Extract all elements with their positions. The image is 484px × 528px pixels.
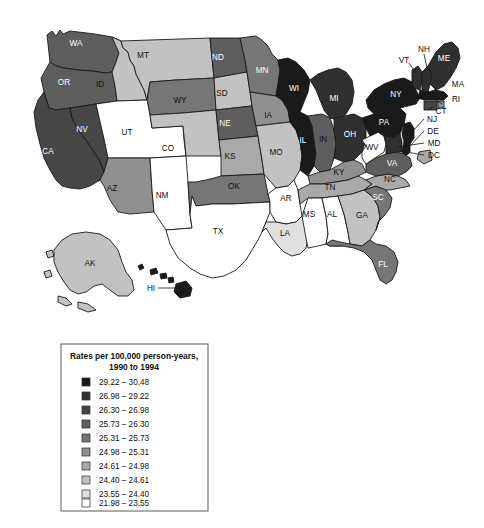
legend-entry-label: 29.22 – 30.48	[99, 378, 150, 387]
legend-entry-label: 23.55 – 24.40	[99, 490, 150, 499]
label-AR: AR	[280, 194, 291, 203]
state-HI-island-4	[168, 277, 174, 283]
legend-swatch	[82, 420, 90, 428]
label-ND: ND	[212, 53, 224, 62]
label-CA: CA	[42, 147, 54, 156]
leader-line-NH	[424, 54, 427, 68]
label-FL: FL	[378, 260, 388, 269]
label-MT: MT	[137, 51, 149, 60]
state-HI-island-1	[138, 264, 144, 270]
label-NJ: NJ	[427, 115, 437, 124]
label-WA: WA	[70, 39, 83, 48]
label-KS: KS	[225, 152, 236, 161]
state-HI-island-2	[150, 268, 158, 275]
label-IL: IL	[300, 136, 307, 145]
legend-entry-label: 26.98 – 29.22	[99, 392, 150, 401]
legend-swatch	[82, 392, 90, 400]
label-RI: RI	[452, 95, 460, 104]
us-choropleth-figure: WA OR CA NV ID MT WY UT AZ NM CO ND SD N…	[0, 0, 484, 528]
label-TN: TN	[325, 183, 336, 192]
label-MN: MN	[256, 66, 269, 75]
label-VA: VA	[387, 159, 398, 168]
label-NC: NC	[384, 175, 396, 184]
label-NM: NM	[156, 191, 169, 200]
leader-line-NJ	[412, 119, 424, 132]
legend-entry-label: 24.61 – 24.98	[99, 462, 150, 471]
label-MA: MA	[452, 80, 465, 89]
label-UT: UT	[122, 128, 133, 137]
label-IN: IN	[319, 135, 327, 144]
label-AZ: AZ	[107, 184, 117, 193]
label-GA: GA	[356, 211, 368, 220]
label-CO: CO	[162, 144, 174, 153]
state-MD	[384, 134, 402, 154]
legend-entry-label: 26.30 – 26.98	[99, 406, 150, 415]
label-VT: VT	[399, 56, 409, 65]
label-TX: TX	[213, 227, 224, 236]
label-OK: OK	[228, 182, 240, 191]
legend-swatch	[82, 499, 90, 507]
legend-swatch	[82, 434, 90, 442]
state-HI-island-5	[174, 281, 192, 298]
label-MD: MD	[428, 139, 441, 148]
label-DC: DC	[428, 151, 440, 160]
label-OR: OR	[58, 78, 70, 87]
legend-entry-label: 21.98 – 23.55	[99, 499, 150, 508]
legend-entry-label: 24.40 – 24.61	[99, 476, 150, 485]
label-KY: KY	[334, 168, 345, 177]
label-DE: DE	[427, 127, 439, 136]
label-AK: AK	[85, 259, 96, 268]
label-NE: NE	[219, 119, 231, 128]
label-NH: NH	[418, 45, 430, 54]
legend-title-line2: 1990 to 1994	[109, 362, 159, 372]
state-HI-island-3	[160, 273, 167, 279]
label-WV: WV	[365, 143, 379, 152]
label-WI: WI	[289, 84, 299, 93]
legend-entry-label: 24.98 – 25.31	[99, 448, 150, 457]
label-CT: CT	[436, 107, 447, 116]
label-MS: MS	[303, 210, 316, 219]
label-ID: ID	[96, 80, 104, 89]
legend: Rates per 100,000 person-years, 1990 to …	[61, 344, 208, 511]
state-NJ	[402, 122, 414, 144]
label-AL: AL	[327, 210, 337, 219]
label-HI: HI	[147, 284, 155, 293]
label-LA: LA	[280, 229, 291, 238]
label-MI: MI	[329, 94, 338, 103]
label-SD: SD	[216, 89, 227, 98]
label-IA: IA	[264, 111, 272, 120]
legend-swatch	[82, 448, 90, 456]
legend-swatch	[82, 490, 90, 498]
label-ME: ME	[438, 54, 451, 63]
label-NV: NV	[76, 125, 88, 134]
state-polygons	[34, 30, 460, 312]
legend-entry-label: 25.73 – 26.30	[99, 420, 150, 429]
label-OH: OH	[344, 130, 356, 139]
state-AK	[44, 232, 134, 312]
label-NY: NY	[390, 90, 402, 99]
label-PA: PA	[379, 118, 390, 127]
legend-swatch	[82, 378, 90, 386]
legend-title-line1: Rates per 100,000 person-years,	[70, 351, 198, 361]
label-WY: WY	[173, 96, 187, 105]
label-SC: SC	[372, 193, 383, 202]
legend-entry-label: 25.31 – 25.73	[99, 434, 150, 443]
legend-swatch	[82, 476, 90, 484]
legend-swatch	[82, 406, 90, 414]
label-MO: MO	[269, 148, 282, 157]
legend-swatch	[82, 462, 90, 470]
